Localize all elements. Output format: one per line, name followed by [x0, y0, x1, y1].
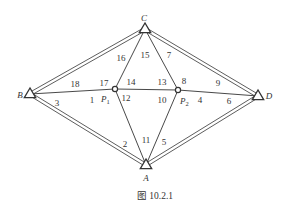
angle-label-3: 3 [55, 98, 60, 108]
angle-label-4: 4 [198, 95, 203, 105]
angle-label-7: 7 [167, 50, 172, 60]
unknown-point-icon-P2 [175, 87, 180, 92]
control-network-diagram: ABCDP1P2123456789101112131415161718 图 10… [0, 0, 285, 206]
angle-label-2: 2 [123, 139, 128, 149]
observed-edge-P1P2 [115, 89, 178, 90]
angle-label-13: 13 [158, 77, 168, 87]
angle-label-8: 8 [182, 76, 187, 86]
known-edge-CD [144, 30, 257, 97]
angle-label-15: 15 [141, 50, 151, 60]
point-label-P1: P1 [100, 94, 110, 105]
known-edges [29, 28, 259, 167]
angle-label-10: 10 [158, 95, 168, 105]
angle-label-1: 1 [90, 95, 95, 105]
angle-label-12: 12 [122, 93, 131, 103]
point-label-A: A [142, 173, 149, 183]
point-label-C: C [141, 13, 148, 23]
angle-label-14: 14 [127, 77, 137, 87]
angle-label-18: 18 [71, 79, 81, 89]
point-label-P2: P2 [179, 96, 189, 107]
known-edge-DA [147, 97, 259, 166]
point-label-B: B [17, 90, 23, 100]
point-label-D: D [265, 91, 273, 101]
triangle-station-icon-B [24, 88, 35, 98]
labels: ABCDP1P2123456789101112131415161718 [17, 13, 273, 183]
known-edge-AB [29, 95, 145, 166]
angle-label-6: 6 [227, 96, 232, 106]
angle-label-17: 17 [100, 78, 110, 88]
unknown-point-icon-P1 [112, 86, 117, 91]
angle-label-11: 11 [142, 135, 151, 145]
angle-label-5: 5 [162, 137, 167, 147]
triangle-station-icon-C [139, 23, 150, 33]
angle-label-9: 9 [216, 78, 221, 88]
angle-label-16: 16 [117, 53, 127, 63]
figure-caption: 图 10.2.1 [137, 191, 173, 201]
